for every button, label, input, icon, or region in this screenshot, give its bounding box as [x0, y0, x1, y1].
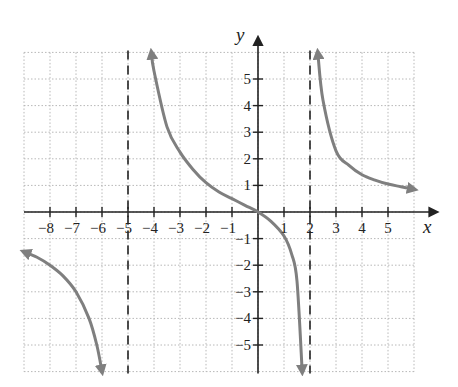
x-tick-label: 2	[306, 220, 314, 236]
y-tick-label: −3	[235, 284, 251, 300]
x-tick-label: −3	[168, 220, 184, 236]
x-tick-label: −8	[38, 220, 54, 236]
y-tick-label: 5	[244, 71, 252, 87]
y-tick-label: −1	[235, 231, 251, 247]
x-tick-label: −5	[116, 220, 132, 236]
y-tick-label: −5	[235, 337, 251, 353]
y-tick-label: −4	[235, 310, 251, 326]
y-tick-label: −2	[235, 257, 251, 273]
x-tick-label: 5	[384, 220, 392, 236]
y-tick-label: 2	[244, 151, 252, 167]
x-tick-label: 4	[358, 220, 366, 236]
x-axis-label: x	[422, 216, 432, 237]
y-tick-label: 3	[244, 124, 252, 140]
x-tick-label: −7	[64, 220, 80, 236]
y-tick-label: 1	[244, 177, 252, 193]
y-tick-label: 4	[244, 98, 252, 114]
x-tick-label: −4	[142, 220, 158, 236]
x-tick-label: −1	[220, 220, 236, 236]
x-tick-label: 3	[332, 220, 340, 236]
curve-left-branch	[24, 252, 102, 372]
x-tick-label: −2	[194, 220, 210, 236]
x-tick-label: 1	[280, 220, 288, 236]
y-axis-label: y	[234, 24, 245, 45]
curve-right-branch	[318, 52, 414, 189]
rational-function-graph: −8−7−6−5−4−3−2−11234554321−1−2−3−4−5 x y	[0, 0, 458, 387]
x-tick-label: −6	[90, 220, 106, 236]
axes	[24, 40, 434, 373]
